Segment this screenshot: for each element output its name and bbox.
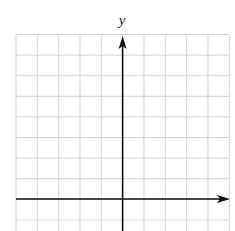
y-axis-label: y (117, 12, 126, 28)
coordinate-plane: y (0, 0, 235, 231)
